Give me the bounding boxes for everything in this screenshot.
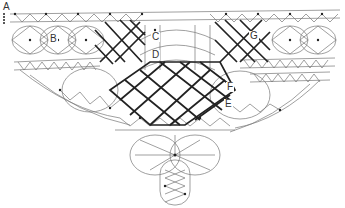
label-e: E: [224, 99, 233, 109]
label-c: C: [151, 32, 160, 42]
label-f: F: [226, 82, 234, 92]
label-d: D: [151, 50, 160, 60]
label-b: B: [49, 34, 58, 44]
label-g: G: [249, 31, 259, 41]
label-a: A: [2, 2, 11, 12]
pattern-drawing: [0, 0, 345, 208]
lace-pricking-diagram: A B C D G F E: [0, 0, 345, 208]
